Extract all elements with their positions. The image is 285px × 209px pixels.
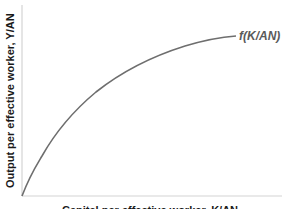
production-curve <box>22 36 236 196</box>
x-axis-label: Capital per effective worker, K/AN <box>62 204 238 209</box>
y-axis-label: Output per effective worker, Y/AN <box>4 13 16 188</box>
curve-label: f(K/AN) <box>239 29 280 43</box>
production-function-chart: f(K/AN) Output per effective worker, Y/A… <box>0 0 285 209</box>
